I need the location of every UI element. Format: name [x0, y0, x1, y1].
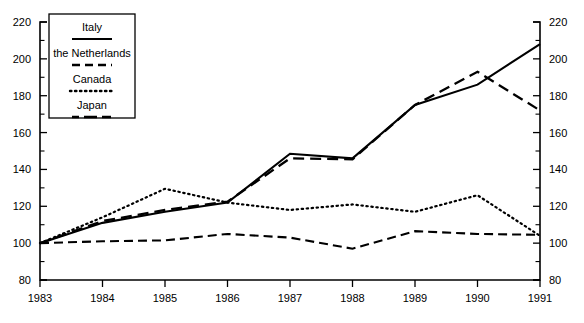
legend-label-canada: Canada: [73, 73, 112, 85]
y-tick-label-right: 100: [549, 237, 567, 249]
y-tick-label-right: 160: [549, 127, 567, 139]
y-tick-label-right: 220: [549, 16, 567, 28]
y-tick-label-right: 180: [549, 90, 567, 102]
x-tick-label: 1987: [278, 292, 302, 304]
x-tick-label: 1988: [340, 292, 364, 304]
x-tick-label: 1991: [528, 292, 552, 304]
chart-legend: Italythe NetherlandsCanadaJapan: [49, 14, 135, 118]
y-tick-label-left: 120: [13, 200, 31, 212]
y-tick-label-left: 80: [19, 274, 31, 286]
x-tick-label: 1983: [28, 292, 52, 304]
x-tick-label: 1985: [153, 292, 177, 304]
x-tick-label: 1989: [403, 292, 427, 304]
x-tick-label: 1990: [465, 292, 489, 304]
legend-label-japan: Japan: [77, 99, 107, 111]
legend-label-italy: Italy: [82, 21, 103, 33]
y-tick-label-left: 200: [13, 53, 31, 65]
y-tick-label-right: 200: [549, 53, 567, 65]
y-tick-label-left: 220: [13, 16, 31, 28]
y-tick-label-left: 140: [13, 163, 31, 175]
y-tick-label-right: 120: [549, 200, 567, 212]
x-tick-label: 1986: [215, 292, 239, 304]
legend-label-the-netherlands: the Netherlands: [53, 47, 131, 59]
y-tick-label-left: 100: [13, 237, 31, 249]
line-chart: 80100120140160180200220 8010012014016018…: [0, 0, 584, 323]
y-tick-label-right: 140: [549, 163, 567, 175]
y-tick-label-left: 180: [13, 90, 31, 102]
y-tick-label-left: 160: [13, 127, 31, 139]
x-tick-label: 1984: [90, 292, 114, 304]
y-tick-label-right: 80: [549, 274, 561, 286]
